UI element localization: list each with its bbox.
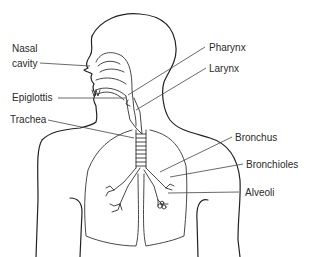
anatomy-illustration — [0, 0, 313, 257]
nasal-cavity — [96, 53, 136, 126]
label-nasal-line2: cavity — [12, 58, 38, 69]
label-bronchus: Bronchus — [235, 132, 277, 143]
label-epiglottis: Epiglottis — [12, 92, 53, 103]
label-nasal-line1: Nasal — [12, 43, 38, 54]
face-outline — [36, 36, 97, 257]
label-pharynx: Pharynx — [209, 42, 246, 53]
label-trachea: Trachea — [10, 114, 46, 125]
larynx — [126, 96, 142, 134]
right-bronchus — [144, 168, 166, 200]
left-bronchus — [114, 168, 140, 204]
respiratory-diagram: Nasal cavity Epiglottis Trachea Pharynx … — [0, 0, 313, 257]
label-nasal-cavity: Nasal cavity — [12, 43, 38, 69]
label-bronchioles: Bronchioles — [246, 159, 298, 170]
label-larynx: Larynx — [209, 63, 239, 74]
label-alveoli: Alveoli — [245, 187, 274, 198]
right-lung — [144, 130, 187, 246]
